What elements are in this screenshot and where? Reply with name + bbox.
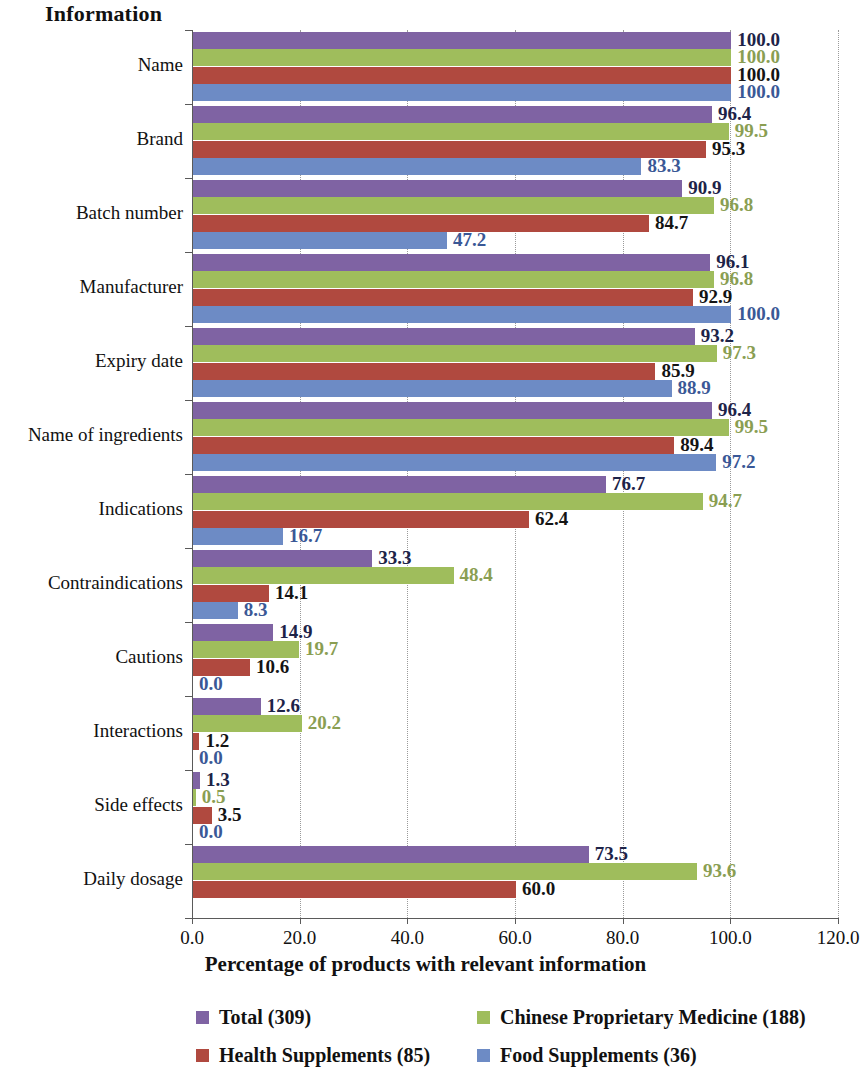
bar <box>193 180 682 197</box>
legend-label: Chinese Proprietary Medicine (188) <box>500 1006 806 1029</box>
x-axis-tick <box>730 918 731 924</box>
bar <box>193 271 714 288</box>
bar <box>193 602 238 619</box>
bar-value-label: 95.3 <box>712 140 745 157</box>
bar <box>193 232 447 249</box>
bar <box>193 419 729 436</box>
category-label: Batch number <box>0 202 183 224</box>
category-label: Cautions <box>0 646 183 668</box>
bar <box>193 84 731 101</box>
category-label: Daily dosage <box>0 868 183 890</box>
bar-value-label: 0.0 <box>199 675 223 692</box>
bar <box>193 454 716 471</box>
bar <box>193 215 649 232</box>
legend-row: Total (309) Chinese Proprietary Medicine… <box>196 1006 816 1044</box>
x-axis-tick <box>838 918 839 924</box>
legend-item-food-supplements[interactable]: Food Supplements (36) <box>477 1044 697 1067</box>
bar-value-label: 48.4 <box>460 566 493 583</box>
bar <box>193 306 731 323</box>
legend-item-chinese-proprietary-medicine[interactable]: Chinese Proprietary Medicine (188) <box>477 1006 806 1029</box>
legend-label: Total (309) <box>219 1006 311 1029</box>
y-axis-tick <box>185 918 192 919</box>
bar <box>193 254 710 271</box>
category-label: Name of ingredients <box>0 424 183 446</box>
y-axis-tick <box>185 252 192 253</box>
bar-value-label: 10.6 <box>256 658 289 675</box>
x-tick-label: 20.0 <box>260 927 340 949</box>
bar-value-label: 16.7 <box>289 527 322 544</box>
bar-value-label: 20.2 <box>308 714 341 731</box>
bar <box>193 67 731 84</box>
bar-value-label: 96.8 <box>720 196 753 213</box>
bar <box>193 49 731 66</box>
bar-value-label: 84.7 <box>655 214 688 231</box>
legend-swatch-icon <box>196 1049 209 1062</box>
category-label: Name <box>0 54 183 76</box>
x-tick-label: 100.0 <box>690 927 770 949</box>
y-axis-tick <box>185 104 192 105</box>
bar-value-label: 97.2 <box>722 453 755 470</box>
legend-label: Food Supplements (36) <box>500 1044 697 1067</box>
bar-value-label: 62.4 <box>535 510 568 527</box>
bar <box>193 437 674 454</box>
bar <box>193 328 695 345</box>
gridline <box>838 30 840 918</box>
bar-value-label: 99.5 <box>735 122 768 139</box>
y-axis-tick <box>185 178 192 179</box>
y-axis-tick <box>185 696 192 697</box>
bar <box>193 528 283 545</box>
bar <box>193 123 729 140</box>
legend-swatch-icon <box>196 1011 209 1024</box>
bar <box>193 772 200 789</box>
bar <box>193 863 697 880</box>
bar-value-label: 12.6 <box>267 697 300 714</box>
x-tick-label: 120.0 <box>798 927 864 949</box>
y-axis-tick <box>185 770 192 771</box>
bar-value-label: 88.9 <box>678 379 711 396</box>
y-axis-tick <box>185 474 192 475</box>
bar <box>193 550 372 567</box>
bar <box>193 289 693 306</box>
bar-value-label: 90.9 <box>688 179 721 196</box>
bar-value-label: 89.4 <box>680 436 713 453</box>
y-axis-tick <box>185 548 192 549</box>
legend-label: Health Supplements (85) <box>219 1044 430 1067</box>
bar-value-label: 97.3 <box>723 344 756 361</box>
bar <box>193 141 706 158</box>
gridline <box>730 30 732 918</box>
y-axis-tick <box>185 326 192 327</box>
category-label: Brand <box>0 128 183 150</box>
bar-value-label: 99.5 <box>735 418 768 435</box>
legend-swatch-icon <box>477 1049 490 1062</box>
bar <box>193 476 606 493</box>
bar-value-label: 100.0 <box>737 83 780 100</box>
plot-area: 100.0100.0100.0100.096.499.595.383.390.9… <box>192 30 838 918</box>
category-label: Interactions <box>0 720 183 742</box>
bar <box>193 881 516 898</box>
bar-value-label: 96.8 <box>720 270 753 287</box>
legend-item-total[interactable]: Total (309) <box>196 1006 311 1029</box>
legend-swatch-icon <box>477 1011 490 1024</box>
category-label: Expiry date <box>0 350 183 372</box>
bar <box>193 511 529 528</box>
bar-value-label: 0.5 <box>202 788 226 805</box>
y-axis-tick <box>185 844 192 845</box>
x-tick-label: 60.0 <box>475 927 555 949</box>
x-axis-tick <box>515 918 516 924</box>
y-axis-tick <box>185 400 192 401</box>
bar <box>193 345 717 362</box>
bar <box>193 567 454 584</box>
legend-item-health-supplements[interactable]: Health Supplements (85) <box>196 1044 430 1067</box>
bar-value-label: 83.3 <box>647 157 680 174</box>
bar <box>193 402 712 419</box>
x-tick-label: 0.0 <box>152 927 232 949</box>
x-axis-tick <box>407 918 408 924</box>
bar-value-label: 94.7 <box>709 492 742 509</box>
category-label: Contraindications <box>0 572 183 594</box>
y-axis-tick <box>185 30 192 31</box>
bar <box>193 624 273 641</box>
legend-row: Health Supplements (85) Food Supplements… <box>196 1044 816 1082</box>
bar-value-label: 93.6 <box>703 862 736 879</box>
bar <box>193 32 731 49</box>
